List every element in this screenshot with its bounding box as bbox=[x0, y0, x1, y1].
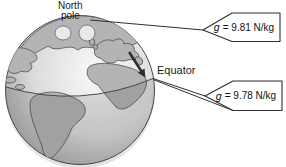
north-pole-label-line2: pole bbox=[61, 11, 80, 21]
figure-canvas: North pole Equator g = 9.81 N/kg g = 9.7… bbox=[0, 0, 286, 167]
gravity-value-equator: g = 9.78 N/kg bbox=[210, 81, 282, 110]
polar-sea-west bbox=[55, 26, 71, 40]
gravity-value-pole-text: = 9.81 N/kg bbox=[223, 22, 274, 33]
gravity-value-equator-text: = 9.78 N/kg bbox=[225, 90, 276, 101]
polar-sea-east bbox=[79, 25, 95, 41]
equator-label: Equator bbox=[157, 65, 196, 76]
coast-caribbean bbox=[16, 85, 25, 90]
g-symbol-pole: g bbox=[214, 21, 220, 33]
island-ireland bbox=[94, 45, 98, 50]
g-symbol-equator: g bbox=[216, 90, 222, 102]
gravity-value-pole: g = 9.81 N/kg bbox=[208, 13, 280, 41]
leader-line-equator-upper bbox=[153, 79, 205, 97]
